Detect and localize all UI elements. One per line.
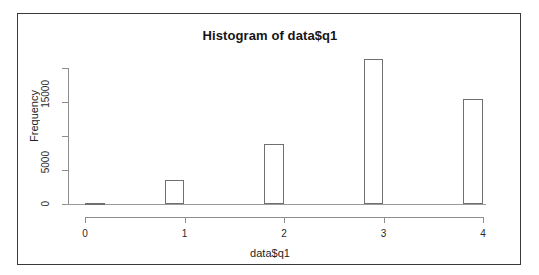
y-axis-line	[68, 68, 69, 205]
y-axis-tick	[62, 68, 68, 69]
x-axis-tick-label: 1	[170, 228, 200, 239]
y-axis-tick	[62, 170, 68, 171]
plot-frame: Histogram of data$q1 0500015000 Frequenc…	[17, 13, 521, 265]
histogram-bar	[364, 59, 384, 204]
y-axis-tick-label-text: 5000	[41, 151, 51, 173]
x-axis-tick-label: 0	[70, 228, 100, 239]
histogram-screenshot: Histogram of data$q1 0500015000 Frequenc…	[0, 0, 539, 275]
x-axis-tick	[284, 217, 285, 223]
histogram-bar	[264, 144, 284, 204]
x-axis-tick-label: 3	[369, 228, 399, 239]
x-axis-tick-label: 4	[468, 228, 498, 239]
y-axis-tick	[62, 102, 68, 103]
x-axis-tick	[185, 217, 186, 223]
histogram-bar	[165, 180, 185, 204]
x-axis-tick	[483, 217, 484, 223]
histogram-bar	[463, 99, 483, 204]
y-axis-title: Frequency	[14, 90, 54, 144]
y-axis-title-text: Frequency	[29, 90, 40, 142]
y-axis-tick-label-text: 0	[41, 201, 51, 207]
y-axis-tick	[62, 136, 68, 137]
x-axis-tick	[384, 217, 385, 223]
x-axis-tick-label: 2	[269, 228, 299, 239]
x-axis-title: data$q1	[18, 247, 522, 259]
plot-area: 0500015000 Frequency 01234 data$q1	[18, 14, 522, 266]
baseline	[66, 204, 486, 205]
x-axis-tick	[85, 217, 86, 223]
histogram-bar	[85, 203, 105, 205]
y-axis-tick-label: 5000	[32, 148, 60, 192]
